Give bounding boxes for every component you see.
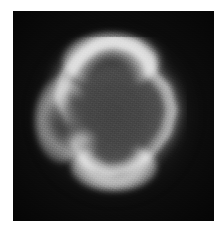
- lower-left-notch: [65, 127, 99, 153]
- figure-caption: [13, 223, 214, 234]
- nebula-object: [13, 11, 214, 221]
- shell-top-crown: [63, 33, 159, 89]
- figure-page: [0, 0, 224, 236]
- nebula-image-plate: [13, 11, 214, 221]
